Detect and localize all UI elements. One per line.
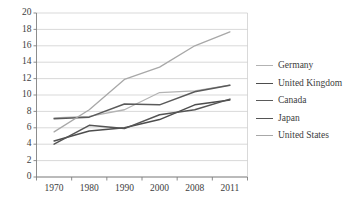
y-axis-tick-label: 6 [27,123,32,133]
legend-item-japan[interactable]: Japan [256,110,363,128]
series-lines [54,32,230,144]
y-axis-tick-label: 20 [22,8,32,18]
chart-legend: GermanyUnited KingdomCanadaJapanUnited S… [256,57,363,145]
legend-swatch-line-icon [256,83,273,84]
legend-item-united-states[interactable]: United States [256,127,363,145]
legend-swatch-line-icon [256,118,273,119]
y-axis-tick-label: 12 [22,74,32,84]
x-axis-tick-label: 2011 [212,184,248,194]
y-axis-tick-label: 8 [27,107,32,117]
x-axis-tick-label: 1980 [71,184,107,194]
legend-item-germany[interactable]: Germany [256,57,363,75]
legend-item-label: Canada [278,96,307,106]
y-axis-tick-label: 2 [27,156,32,166]
legend-item-canada[interactable]: Canada [256,92,363,110]
x-axis-tick-label: 2000 [142,184,178,194]
legend-swatch-line-icon [256,100,273,101]
y-axis-tick-label: 10 [22,90,32,100]
y-axis-tick-label: 14 [22,57,32,67]
legend-item-label: United Kingdom [278,79,342,89]
legend-item-label: Japan [278,114,300,124]
legend-item-label: Germany [278,61,313,71]
y-axis-tick-label: 16 [22,41,32,51]
x-axis-ticks [37,177,248,181]
line-chart: 02468101214161820 1970198019902000200820… [0,0,363,201]
x-axis-tick-label: 1970 [36,184,72,194]
legend-item-label: United States [278,131,329,141]
y-axis-tick-label: 18 [22,25,32,35]
legend-item-united-kingdom[interactable]: United Kingdom [256,75,363,93]
legend-swatch-line-icon [256,65,273,66]
series-line-canada [54,85,230,119]
x-axis-tick-label: 2008 [177,184,213,194]
x-axis-tick-label: 1990 [106,184,142,194]
y-axis-tick-label: 4 [27,139,32,149]
series-line-japan [54,99,230,144]
series-line-united-kingdom [54,100,230,141]
y-axis-tick-label: 0 [27,172,32,182]
legend-swatch-line-icon [256,135,273,136]
